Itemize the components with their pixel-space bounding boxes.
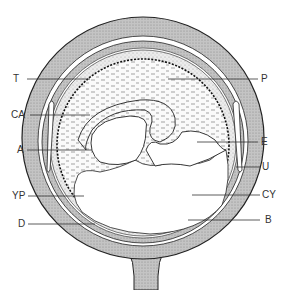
label-U: U <box>262 162 269 172</box>
label-CY: CY <box>262 190 276 200</box>
label-A: A <box>17 145 24 155</box>
cross-section-diagram <box>0 0 287 290</box>
label-B: B <box>265 215 272 225</box>
label-CA: CA <box>11 110 25 120</box>
label-E: E <box>261 137 268 147</box>
label-T: T <box>13 74 19 84</box>
label-P: P <box>261 74 268 84</box>
label-YP: YP <box>12 191 25 201</box>
label-D: D <box>18 219 25 229</box>
